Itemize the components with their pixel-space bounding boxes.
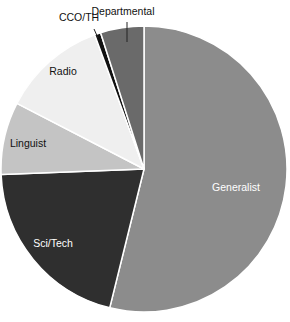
label-scitech: Sci/Tech: [33, 237, 73, 249]
pie-chart-canvas: Generalist Sci/Tech Linguist Radio CCO/T…: [0, 0, 290, 322]
label-linguist: Linguist: [10, 137, 46, 149]
pie-chart: Generalist Sci/Tech Linguist Radio CCO/T…: [0, 0, 290, 322]
pie-slices: [1, 26, 287, 312]
label-departmental: Departmental: [91, 5, 154, 17]
label-radio: Radio: [49, 65, 77, 77]
label-generalist: Generalist: [212, 181, 260, 193]
